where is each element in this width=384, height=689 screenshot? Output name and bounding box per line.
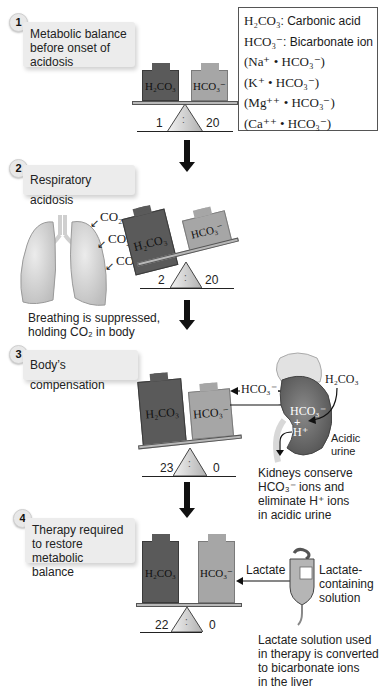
squiggle-arrow-icon: ↙ [90,217,99,230]
step-3-caption: Kidneys conserve HCO₃⁻ ions and eliminat… [258,466,353,522]
weight-knob [193,206,212,218]
step-4-ground [140,632,202,633]
acidic-urine-label: Acidic urine [331,432,360,458]
step-2-title-text: Respiratory acidosis [30,173,91,207]
step-3-h2co3-weight: H₂CO₃ [137,378,186,446]
arrow-down-1 [184,140,190,164]
legend-row-carbonic-acid: H₂CO₃: Carbonic acid [244,11,372,32]
step-3-right-value: 0 [213,461,220,475]
step-4-h2co3-weight: H₂CO₃ [142,541,179,603]
step-1-right-value: 20 [206,116,219,130]
squiggle-arrow-icon: ↙ [105,260,114,273]
step-3-fulcrum-mark: : [188,458,191,469]
step-1-left-value: 1 [156,116,163,130]
step-2-title: Respiratory acidosis [23,165,135,195]
step-4-hco3-weight: HCO₃⁻ [198,541,235,603]
weight-knob [152,63,170,71]
step-1-ground [137,131,233,132]
squiggle-arrow-icon: ↙ [97,238,106,251]
step-4-caption: Lactate solution used in therapy is conv… [258,633,379,689]
step-2-caption: Breathing is suppressed, holding CO₂ in … [28,311,160,339]
legend-row-calcium: (Ca⁺⁺ • HCO₃⁻) [244,114,372,135]
co2-label: CO₂ [100,209,123,225]
legend-row-sodium: (Na⁺ • HCO₃⁻) [244,52,372,73]
kidney-input-h2co3: H₂CO₃ [325,372,359,387]
weight-knob [201,63,219,71]
legend-row-potassium: (K⁺ • HCO₃⁻) [244,73,372,94]
step-1-fulcrum [167,104,203,132]
step-3-left-value: 23 [160,461,173,475]
lactate-arrow-label: Lactate [246,563,285,577]
step-4-title: Therapy required to restore metabolic ba… [25,518,135,563]
step-4-title-text: Therapy required to restore metabolic ba… [32,523,123,579]
weight-knob [152,534,170,542]
step-1-fulcrum-mark: : [182,114,185,125]
legend-box: H₂CO₃: Carbonic acid HCO₃⁻: Bicarbonate … [238,7,378,131]
weight-knob [150,372,169,382]
legend-row-magnesium: (Mg⁺⁺ • HCO₃⁻) [244,93,372,114]
h-urine-arrow [274,428,296,458]
weight-knob [199,382,218,392]
iv-bag-icon [284,547,320,627]
step-4-fulcrum-mark: : [185,616,188,627]
step-3-ground [142,476,236,477]
step-2-ground [140,288,234,289]
step-3-title: Body’s compensation [23,350,138,380]
weight-knob [208,534,226,542]
arrow-down-2 [184,300,190,322]
iv-bag-label: Lactate- containing solution [319,563,374,605]
step-2-fulcrum-mark: : [184,272,187,283]
arrow-down-3 [184,482,190,510]
step-1-title-text: Metabolic balance before onset of acidos… [30,27,127,69]
step-1-hco3-weight: HCO₃⁻ [191,70,228,101]
step-2-right-value: 20 [205,273,218,287]
step-3-title-text: Body’s compensation [30,358,105,392]
legend-row-bicarbonate: HCO₃⁻: Bicarbonate ion [244,32,372,53]
step-2-left-value: 2 [158,273,165,287]
step-1-title: Metabolic balance before onset of acidos… [23,22,135,67]
step-1-h2co3-weight: H₂CO₃ [142,70,179,101]
step-4-right-value: 0 [209,618,216,632]
step-4-left-value: 22 [155,618,168,632]
weight-knob [133,205,152,217]
